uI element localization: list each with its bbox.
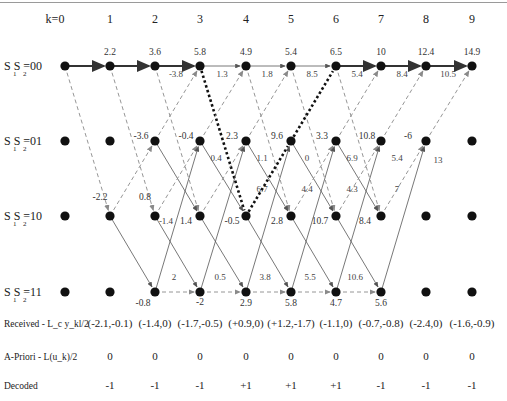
- row-0-value-k3: (-1.7,-0.5): [178, 317, 223, 330]
- state-subscript-1: 1: [13, 220, 17, 228]
- trellis-node-01-k8: [421, 136, 430, 145]
- trellis-node-11-k5: [286, 287, 295, 296]
- node-metric-00-k5: 5.4: [285, 47, 297, 57]
- trellis-node-01-k2: [150, 136, 159, 145]
- stage-label-7: 7: [378, 12, 384, 26]
- trellis-node-10-k0: [60, 211, 69, 220]
- trellis-node-11-k7: [376, 287, 385, 296]
- trellis-node-00-k9: [467, 61, 476, 70]
- branch-label-2: 1.8: [261, 69, 273, 79]
- row-1-value-k8: 0: [423, 350, 429, 362]
- branch-label-11: 5.4: [391, 153, 403, 163]
- node-metric-11-k2: -0.8: [135, 298, 150, 308]
- trellis-node-10-k4: [241, 211, 250, 220]
- row-1-value-k4: 0: [243, 350, 249, 362]
- node-metric-00-k9: 14.9: [464, 47, 481, 57]
- trellis-diagram-figure: k=0123456789S S =0012S S =0112S S =1012S…: [0, 0, 507, 401]
- row-1-value-k2: 0: [152, 350, 158, 362]
- state-subscript-2: 2: [23, 145, 27, 153]
- row-2-value-k6: +1: [330, 379, 342, 391]
- branch-label-19: 0.5: [214, 272, 226, 282]
- trellis-node-01-k4: [241, 136, 250, 145]
- node-metric-11-k6: 4.7: [330, 298, 342, 308]
- trellis-node-11-k0: [60, 287, 69, 296]
- row-2-value-k2: -1: [150, 379, 159, 391]
- row-2-value-k5: +1: [285, 379, 297, 391]
- trellis-node-01-k7: [376, 136, 385, 145]
- trellis-node-11-k8: [421, 287, 430, 296]
- branch-label-12: 13: [434, 155, 444, 165]
- trellis-node-11-k1: [105, 287, 114, 296]
- node-metric-10-k5: 2.8: [271, 216, 283, 226]
- node-metric-00-k6: 6.5: [330, 47, 342, 57]
- trellis-node-00-k1: [105, 61, 114, 70]
- row-1-value-k1: 0: [107, 350, 113, 362]
- row-0-value-k8: (-2.4,0): [410, 317, 443, 330]
- trellis-node-00-k0: [60, 61, 69, 70]
- trellis-node-11-k3: [195, 287, 204, 296]
- trellis-node-11-k2: [150, 287, 159, 296]
- node-metric-01-k7: 10.8: [359, 131, 376, 141]
- trellis-node-10-k6: [331, 211, 340, 220]
- node-metric-01-k3: -0.4: [178, 131, 193, 141]
- dashed-branch-10-to-01-k2: [155, 146, 197, 216]
- row-2-value-k3: -1: [195, 379, 204, 391]
- row-1-value-k6: 0: [333, 350, 339, 362]
- branch-label-14: 6.7: [256, 184, 268, 194]
- branch-label-22: 10.6: [347, 272, 363, 282]
- branch-label-13: -1.4: [159, 216, 174, 226]
- branch-label-8: 1.1: [256, 153, 267, 163]
- stage-label-8: 8: [423, 12, 429, 26]
- row-0-value-k7: (-0.7,-0.8): [359, 317, 404, 330]
- trellis-node-10-k1: [105, 211, 114, 220]
- trellis-node-00-k8: [421, 61, 430, 70]
- trellis-node-00-k5: [286, 61, 295, 70]
- row-0-value-k4: (+0.9,0): [228, 317, 264, 330]
- node-metric-00-k8: 12.4: [418, 47, 435, 57]
- row-2-value-k7: -1: [376, 379, 385, 391]
- solid-branch-10-to-11-k1: [110, 216, 152, 287]
- node-metric-00-k3: 5.8: [194, 47, 206, 57]
- solid-branch-01-to-10-k4: [246, 141, 288, 211]
- dashed-branch-01-to-00-k8: [426, 71, 469, 141]
- node-metric-10-k3: 1.4: [180, 216, 192, 226]
- row-1-value-k5: 0: [288, 350, 294, 362]
- solid-branch-11-to-01-k7: [381, 147, 424, 292]
- node-metric-10-k7: 8.4: [359, 216, 371, 226]
- trellis-node-01-k3: [195, 136, 204, 145]
- trellis-node-01-k6: [331, 136, 340, 145]
- node-metric-01-k4: 2.3: [226, 131, 238, 141]
- node-metric-00-k7: 10: [376, 47, 386, 57]
- branch-label-9: 0: [305, 153, 310, 163]
- row-label-0: Received - L_c y_kl/2: [4, 319, 89, 329]
- dashed-branch-10-to-01-k1: [110, 146, 152, 216]
- stage-label-0: k=0: [46, 12, 65, 26]
- stage-label-1: 1: [107, 12, 113, 26]
- branch-label-1: 1.3: [216, 69, 228, 79]
- row-0-value-k6: (-1.1,0): [320, 317, 353, 330]
- trellis-node-10-k7: [376, 211, 385, 220]
- state-subscript-1: 1: [13, 70, 17, 78]
- stage-label-5: 5: [288, 12, 294, 26]
- branch-label-6: 10.5: [440, 69, 456, 79]
- solid-branch-01-to-10-k5: [291, 141, 333, 211]
- branch-label-21: 5.5: [304, 272, 316, 282]
- node-metric-11-k5: 5.8: [285, 298, 297, 308]
- branch-label-16: 4.3: [346, 184, 358, 194]
- stage-label-3: 3: [197, 12, 203, 26]
- node-metric-10-k4: -0.5: [224, 216, 239, 226]
- trellis-node-10-k8: [421, 211, 430, 220]
- row-1-value-k3: 0: [197, 350, 203, 362]
- dashed-branch-00-to-10-k0: [65, 66, 108, 210]
- node-metric-00-k1: 2.2: [104, 47, 116, 57]
- state-subscript-2: 2: [23, 296, 27, 304]
- node-metric-10-k6: 10.7: [312, 216, 329, 226]
- row-2-value-k8: -1: [421, 379, 430, 391]
- state-subscript-2: 2: [23, 220, 27, 228]
- row-0-value-k1: (-2.1,-0.1): [88, 317, 133, 330]
- node-metric-00-k4: 4.9: [240, 47, 252, 57]
- branch-label-10: 6.9: [346, 153, 358, 163]
- row-2-value-k4: +1: [240, 379, 252, 391]
- trellis-canvas: k=0123456789S S =0012S S =0112S S =1012S…: [0, 0, 507, 401]
- state-subscript-2: 2: [23, 70, 27, 78]
